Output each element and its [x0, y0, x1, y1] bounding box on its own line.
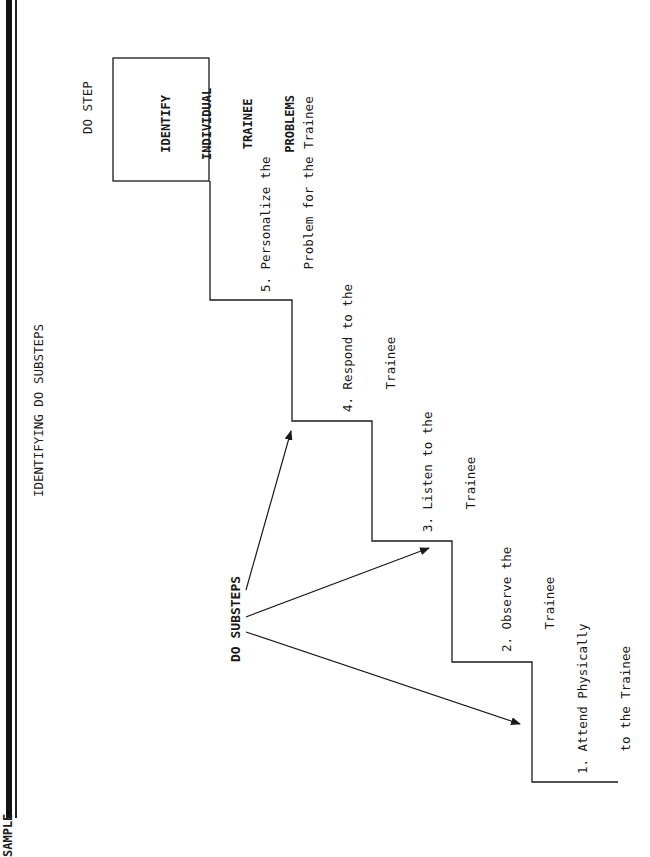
substep-3-label: 3. Listen to the Trainee	[392, 412, 493, 532]
do-substeps-label: DO SUBSTEPS	[229, 576, 244, 662]
substep-4-label: 4. Respond to the Trainee	[312, 284, 413, 412]
substep-1-label: 1. Attend Physically to the Trainee	[547, 623, 648, 774]
substep-5-label: 5. Personalize the Problem for the Train…	[230, 96, 331, 292]
box-line-1: IDENTIFY	[160, 88, 174, 160]
box-line-2: INDIVIDUAL	[201, 88, 215, 160]
arrow-to-step-4	[246, 431, 291, 590]
arrow-to-step-2	[246, 548, 429, 617]
